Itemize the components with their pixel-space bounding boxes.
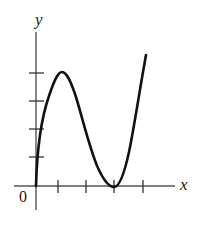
y-axis-label: y [35,11,43,28]
cubic-curve-figure: y x 0 [0,0,199,226]
plot-area [0,0,199,226]
origin-label: 0 [19,189,27,205]
cubic-curve [36,55,146,187]
x-axis-label: x [180,176,188,193]
